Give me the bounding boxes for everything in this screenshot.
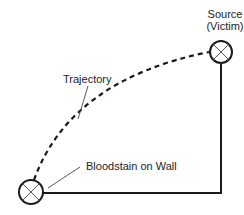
- source-label-line2: (Victim): [205, 20, 244, 32]
- trajectory-label: Trajectory: [63, 73, 112, 85]
- trajectory-diagram: [0, 0, 244, 215]
- bloodstain-label: Bloodstain on Wall: [86, 160, 177, 172]
- bloodstain-leader-line: [48, 167, 80, 188]
- source-label: Source (Victim): [205, 8, 244, 32]
- bloodstain-node-icon: [19, 180, 43, 204]
- source-node-icon: [210, 41, 232, 63]
- source-label-line1: Source: [205, 8, 244, 20]
- trajectory-leader-line: [78, 86, 88, 119]
